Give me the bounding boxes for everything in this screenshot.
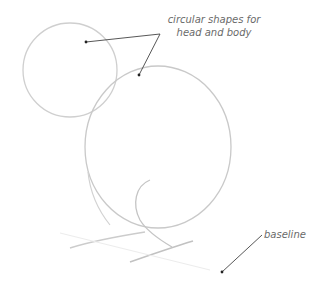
leader-dot-baseline [221, 271, 224, 274]
leader-dot-body [138, 74, 141, 77]
baseline-guide [60, 233, 210, 270]
leader-dot-head [85, 41, 88, 44]
annotation-line: head and body [164, 26, 264, 39]
body-circle [85, 66, 231, 228]
sketch-drawing [0, 0, 317, 294]
leader-line-baseline [222, 235, 262, 272]
sketch-diagram: circular shapes for head and body baseli… [0, 0, 317, 294]
annotation-baseline: baseline [264, 228, 306, 241]
baseline-stroke-right [130, 241, 193, 262]
leader-line-head-body [86, 34, 160, 75]
annotation-line: baseline [264, 228, 306, 241]
annotation-line: circular shapes for [164, 13, 264, 26]
annotation-head-body: circular shapes for head and body [164, 13, 264, 39]
head-circle [23, 23, 117, 117]
haunch-curve [136, 180, 172, 247]
baseline-stroke-left [70, 232, 145, 248]
